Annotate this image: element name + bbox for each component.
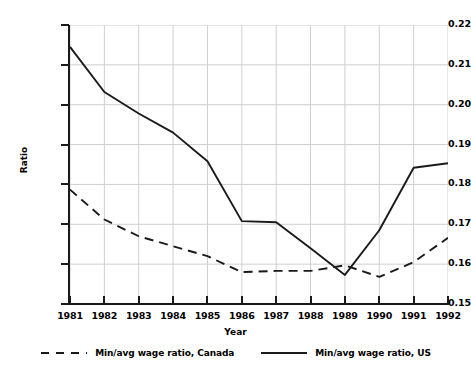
y-tick-label: 0.17 [415,217,471,228]
y-tick-label: 0.21 [415,58,471,69]
y-tick-mark [61,183,69,185]
y-tick-mark [61,303,69,305]
legend-swatch-solid [260,348,308,358]
series-line-2 [70,47,448,275]
x-tick-mark [206,296,208,305]
y-tick-label: 0.18 [415,177,471,188]
chart-figure: 0.150.160.170.180.190.200.210.22 1981198… [0,0,471,368]
x-tick-mark [103,296,105,305]
y-tick-mark [61,104,69,106]
y-tick-mark [61,144,69,146]
series-line-1 [70,190,448,277]
x-tick-mark [138,296,140,305]
legend-label: Min/avg wage ratio, US [315,348,431,358]
y-tick-mark [61,223,69,225]
x-tick-mark [69,296,71,305]
y-tick-mark [61,24,69,26]
x-tick-mark [172,296,174,305]
x-axis-spine [68,303,449,305]
legend-entry[interactable]: Min/avg wage ratio, Canada [40,348,234,358]
y-tick-label: 0.16 [415,257,471,268]
y-tick-mark [61,263,69,265]
plot-area [70,25,448,304]
y-tick-label: 0.19 [415,138,471,149]
x-tick-mark [275,296,277,305]
x-tick-mark [378,296,380,305]
legend-swatch-dashed [40,348,88,358]
x-tick-mark [447,296,449,305]
y-tick-label: 0.15 [415,297,471,308]
x-tick-mark [344,296,346,305]
chart-title [0,0,471,12]
y-axis-title: Ratio [19,130,29,190]
x-tick-mark [413,296,415,305]
y-tick-label: 0.22 [415,18,471,29]
chart-legend: Min/avg wage ratio, CanadaMin/avg wage r… [0,343,471,363]
legend-entry[interactable]: Min/avg wage ratio, US [260,348,431,358]
x-tick-label: 1992 [428,310,468,321]
x-tick-mark [310,296,312,305]
x-tick-mark [241,296,243,305]
y-tick-label: 0.20 [415,98,471,109]
data-series-group [70,25,448,304]
legend-label: Min/avg wage ratio, Canada [95,348,234,358]
x-axis-title: Year [0,327,471,337]
y-tick-mark [61,64,69,66]
